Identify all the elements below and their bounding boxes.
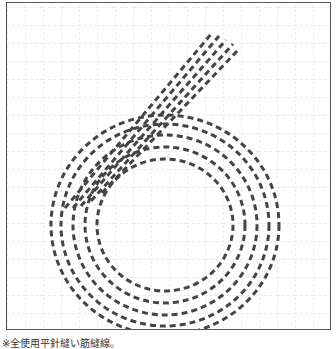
pattern-frame	[6, 2, 331, 330]
grid-background	[7, 3, 330, 329]
caption-note: ※全使用平針縫い筋縫線。	[2, 335, 120, 349]
numeral-6-stitch-diagram	[7, 3, 330, 329]
